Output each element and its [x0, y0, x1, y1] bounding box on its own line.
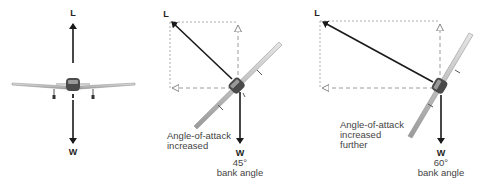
lift-label: L [70, 8, 76, 18]
lift-label: L [163, 9, 169, 19]
bank-angle-caption: 45° bank angle [217, 158, 263, 178]
bank-angle-caption: 60° bank angle [418, 158, 464, 178]
aoa-note-line: further [340, 140, 404, 150]
panel-level [12, 24, 135, 143]
panel-bank-45 [170, 22, 282, 143]
bank-angle-label: bank angle [217, 168, 263, 178]
lift-label: L [314, 8, 320, 18]
lift-arrow [172, 22, 232, 79]
aoa-note: Angle-of-attack increased further [340, 120, 404, 150]
aircraft-front-view [12, 78, 135, 99]
component-dashed-lines [170, 22, 238, 88]
bank-angle-label: bank angle [418, 168, 464, 178]
weight-label: W [69, 147, 78, 157]
aoa-note-line: increased [167, 141, 231, 151]
aoa-note: Angle-of-attack increased [167, 131, 231, 151]
lift-arrow [323, 22, 433, 82]
